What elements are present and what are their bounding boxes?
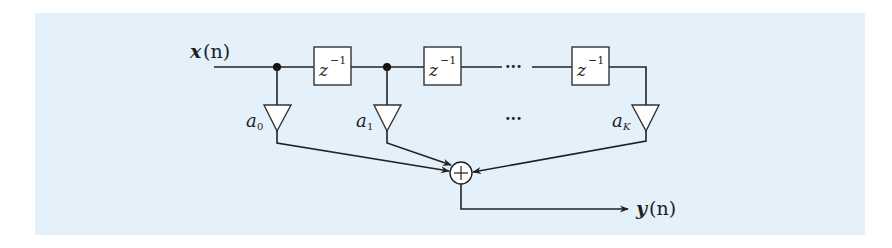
- gain-0-subscript: 0: [257, 121, 263, 132]
- fir-filter-diagram: x (n) z −1 z −1 z −1 ··· ··· a 0: [0, 0, 892, 248]
- gain-1: a 1: [356, 105, 401, 132]
- arrow-gain1-to-adder: [387, 131, 451, 165]
- delay-K-symbol: z: [576, 60, 587, 80]
- input-label: x (n): [189, 40, 230, 62]
- arrow-gainK-to-adder: [473, 131, 646, 172]
- delay-2-exponent: −1: [440, 54, 456, 67]
- gain-triangle-0: [264, 105, 291, 131]
- output-arrow: [461, 184, 628, 209]
- gain-K-subscript: K: [622, 121, 631, 132]
- gain-1-subscript: 1: [367, 121, 373, 132]
- delay-box-2: z −1: [424, 47, 461, 85]
- gain-0-symbol: a: [246, 110, 257, 131]
- wire-delayK-gainK: [609, 67, 646, 105]
- input-arg: (n): [203, 40, 230, 62]
- summation-node: [450, 162, 472, 184]
- arrow-gain0-to-adder: [277, 131, 449, 171]
- delay-box-K: z −1: [572, 47, 609, 85]
- gain-0: a 0: [246, 105, 291, 132]
- delay-box-1: z −1: [314, 47, 351, 85]
- delay-2-symbol: z: [428, 60, 439, 80]
- gain-triangle-K: [632, 105, 659, 131]
- delay-1-exponent: −1: [330, 54, 346, 67]
- ellipsis-top: ···: [505, 57, 522, 76]
- gain-K-symbol: a: [612, 110, 623, 131]
- ellipsis-bottom: ···: [505, 109, 522, 128]
- output-label: y (n): [635, 197, 676, 219]
- gain-K: a K: [612, 105, 659, 132]
- delay-K-exponent: −1: [588, 54, 604, 67]
- output-arg: (n): [649, 197, 676, 219]
- delay-1-symbol: z: [318, 60, 329, 80]
- input-symbol: x: [189, 40, 202, 62]
- output-symbol: y: [635, 197, 649, 219]
- gain-1-symbol: a: [356, 110, 367, 131]
- gain-triangle-1: [374, 105, 401, 131]
